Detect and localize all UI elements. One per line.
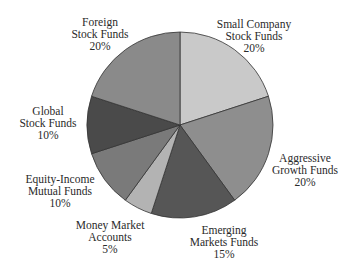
label-small-company: Small Company Stock Funds 20%	[217, 18, 291, 54]
label-line: Mutual Funds	[26, 185, 95, 197]
label-line: Stock Funds	[71, 28, 128, 40]
label-line: Markets Funds	[190, 236, 259, 248]
label-money-market: Money Market Accounts 5%	[76, 219, 145, 255]
label-percent: 20%	[272, 176, 338, 188]
label-percent: 15%	[190, 248, 259, 260]
label-percent: 10%	[26, 197, 95, 209]
label-line: Equity-Income	[26, 173, 95, 185]
label-line: Foreign	[71, 16, 128, 28]
label-percent: 20%	[217, 42, 291, 54]
label-line: Global	[19, 105, 76, 117]
label-foreign-stock: Foreign Stock Funds 20%	[71, 16, 128, 52]
label-global-stock: Global Stock Funds 10%	[19, 105, 76, 141]
label-percent: 5%	[76, 243, 145, 255]
label-percent: 20%	[71, 40, 128, 52]
label-equity-income: Equity-Income Mutual Funds 10%	[26, 173, 95, 209]
label-line: Small Company	[217, 18, 291, 30]
label-line: Stock Funds	[19, 117, 76, 129]
label-line: Accounts	[76, 231, 145, 243]
label-line: Emerging	[190, 224, 259, 236]
label-line: Growth Funds	[272, 164, 338, 176]
label-line: Money Market	[76, 219, 145, 231]
label-percent: 10%	[19, 129, 76, 141]
label-line: Stock Funds	[217, 30, 291, 42]
pie-slices	[87, 32, 273, 218]
label-emerging-markets: Emerging Markets Funds 15%	[190, 224, 259, 260]
label-line: Aggressive	[272, 152, 338, 164]
label-aggressive-growth: Aggressive Growth Funds 20%	[272, 152, 338, 188]
